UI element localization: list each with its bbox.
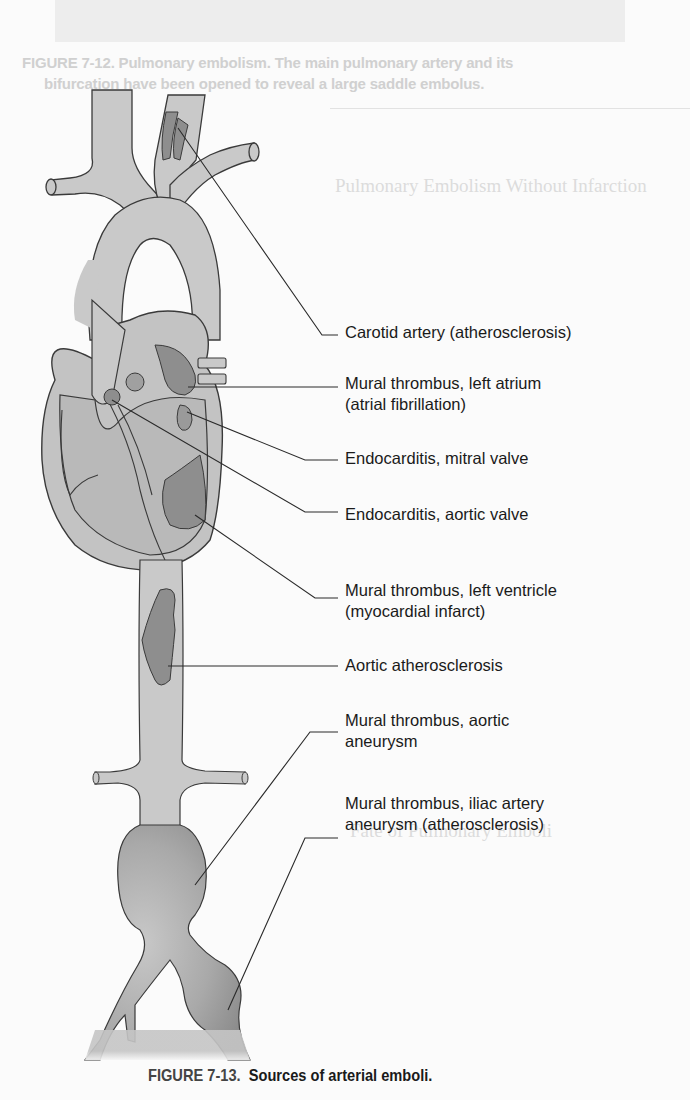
label-aortic-aneurysm-thrombus: Mural thrombus, aortic aneurysm	[345, 710, 509, 752]
label-left-atrium-thrombus: Mural thrombus, left atrium (atrial fibr…	[345, 373, 541, 415]
figure-caption: FIGURE 7-13. Sources of arterial emboli.	[148, 1066, 432, 1086]
label-aortic-valve-endocarditis: Endocarditis, aortic valve	[345, 504, 528, 525]
label-aortic-atherosclerosis: Aortic atherosclerosis	[345, 655, 503, 676]
label-mitral-valve-endocarditis: Endocarditis, mitral valve	[345, 448, 528, 469]
figure-title: Sources of arterial emboli.	[249, 1066, 433, 1085]
label-left-ventricle-thrombus: Mural thrombus, left ventricle (myocardi…	[345, 580, 557, 622]
label-iliac-aneurysm-thrombus: Mural thrombus, iliac artery aneurysm (a…	[345, 793, 544, 835]
label-carotid-artery: Carotid artery (atherosclerosis)	[345, 322, 572, 343]
aortic-aneurysm	[85, 825, 250, 1060]
mitral-valve-vegetation	[126, 373, 144, 391]
figure-number: FIGURE 7-13.	[148, 1066, 241, 1085]
aortic-valve-vegetation	[104, 389, 120, 405]
arterial-emboli-diagram	[0, 0, 690, 1100]
